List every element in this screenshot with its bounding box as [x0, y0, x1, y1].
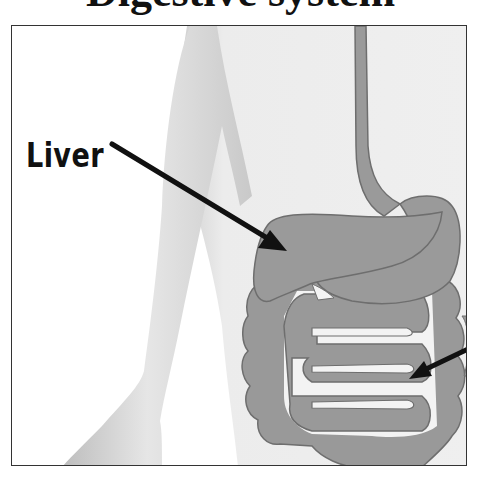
- small-intestine: [284, 294, 431, 431]
- title-fragment: Digestive system: [0, 0, 481, 14]
- diagram-frame: Liver: [11, 25, 467, 466]
- anatomy-illustration: [12, 26, 467, 466]
- liver-label: Liver: [26, 136, 104, 175]
